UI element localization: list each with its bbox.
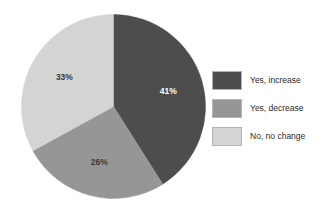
pie-data-label: 26% — [91, 157, 108, 167]
pie-data-label: 41% — [160, 86, 177, 96]
pie-slice-group — [22, 15, 206, 199]
legend-label-no-no-change: No, no change — [250, 131, 305, 141]
legend-label-yes-increase: Yes, increase — [250, 75, 301, 85]
legend-swatch-yes-decrease — [212, 99, 242, 118]
pie-plot-area: 41%26%33% — [21, 14, 206, 199]
legend-item-yes-increase[interactable]: Yes, increase — [212, 66, 324, 94]
legend-item-yes-decrease[interactable]: Yes, decrease — [212, 94, 324, 122]
legend-item-no-no-change[interactable]: No, no change — [212, 122, 324, 150]
legend-swatch-no-no-change — [212, 127, 242, 146]
pie-chart: 41%26%33% Yes, increase Yes, decrease No… — [0, 0, 328, 214]
chart-legend: Yes, increase Yes, decrease No, no chang… — [212, 66, 324, 150]
legend-label-yes-decrease: Yes, decrease — [250, 103, 304, 113]
legend-swatch-yes-increase — [212, 71, 242, 90]
pie-svg: 41%26%33% — [21, 14, 206, 199]
pie-data-label: 33% — [56, 72, 73, 82]
